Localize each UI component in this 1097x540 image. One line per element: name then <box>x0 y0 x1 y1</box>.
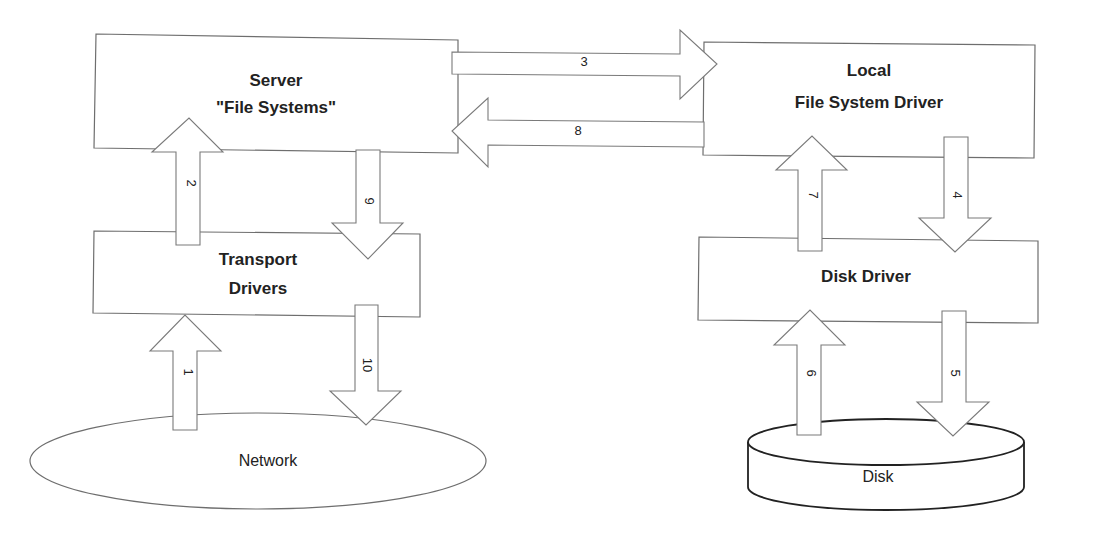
arrow-3-label: 3 <box>580 54 587 69</box>
local-fs-label-line2: File System Driver <box>795 93 944 112</box>
arrow-7-label: 7 <box>806 191 821 198</box>
diagram-canvas: Server "File Systems" Local File System … <box>0 0 1097 540</box>
transport-label-line1: Transport <box>219 250 298 269</box>
local-fs-label-line1: Local <box>847 61 891 80</box>
arrow-5-label: 5 <box>948 369 963 376</box>
arrow-1: 1 <box>150 315 221 430</box>
network-node: Network <box>30 413 486 509</box>
arrow-8: 8 <box>452 98 704 167</box>
arrow-10: 10 <box>330 305 401 425</box>
transport-label-line2: Drivers <box>229 279 288 298</box>
server-label-line1: Server <box>250 71 303 90</box>
disk-driver-label: Disk Driver <box>821 267 911 286</box>
disk-driver-node: Disk Driver <box>698 237 1038 323</box>
arrow-6: 6 <box>774 310 845 435</box>
network-label: Network <box>239 452 299 469</box>
arrow-4-label: 4 <box>950 191 965 198</box>
local-file-system-driver-node: Local File System Driver <box>703 42 1035 158</box>
arrow-5: 5 <box>917 311 989 436</box>
arrow-3: 3 <box>452 30 717 99</box>
arrow-8-label: 8 <box>574 123 581 138</box>
disk-label: Disk <box>862 468 894 485</box>
disk-node: Disk <box>748 419 1024 510</box>
arrow-1-label: 1 <box>181 368 196 375</box>
server-file-systems-node: Server "File Systems" <box>94 34 458 153</box>
arrow-10-label: 10 <box>360 358 375 372</box>
arrow-2-label: 2 <box>184 179 199 186</box>
server-label-line2: "File Systems" <box>216 98 336 117</box>
arrow-9-label: 9 <box>362 197 377 204</box>
arrow-6-label: 6 <box>804 369 819 376</box>
